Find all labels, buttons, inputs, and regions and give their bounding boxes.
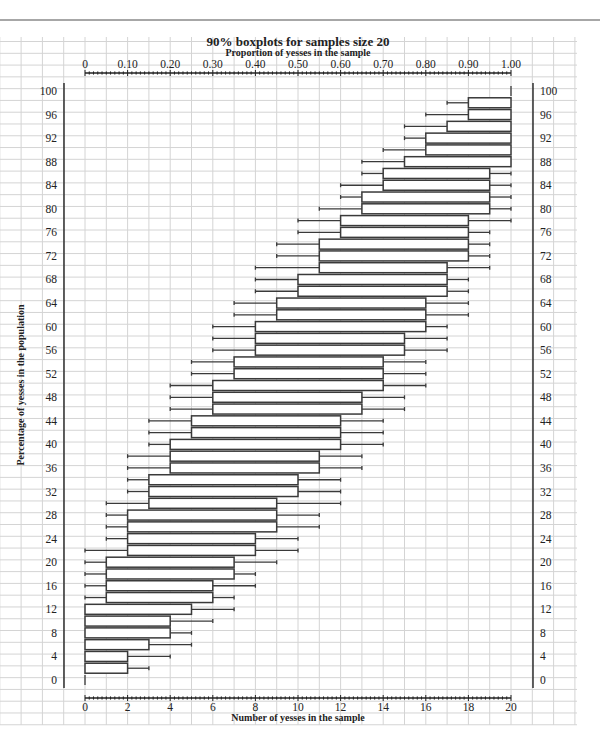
boxplot-row [298, 227, 490, 237]
boxplot-row [213, 333, 447, 343]
left-axis-tick-label: 4 [51, 650, 57, 662]
box [170, 451, 319, 461]
boxplot-row [426, 110, 511, 120]
boxplot-row [170, 404, 404, 414]
box [149, 487, 298, 497]
left-axis-tick-label: 56 [46, 344, 58, 356]
box [405, 157, 512, 167]
count-axis: 02468101214161820 [82, 695, 517, 713]
box [85, 640, 149, 650]
box [319, 251, 468, 261]
box [170, 463, 319, 473]
bottom-axis-tick-label: 2 [125, 701, 131, 713]
box [106, 593, 213, 603]
box [85, 663, 128, 673]
boxplot-row [149, 416, 383, 426]
bottom-axis-tick-label: 0 [82, 701, 88, 713]
left-axis-tick-label: 36 [46, 462, 58, 474]
boxplot-chart: 90% boxplots for samples size 20 Proport… [0, 0, 600, 751]
box [383, 168, 490, 178]
left-axis-tick-label: 8 [51, 627, 57, 639]
box [149, 475, 298, 485]
right-axis-tick-label: 48 [540, 391, 552, 403]
box [149, 498, 277, 508]
box [85, 616, 170, 626]
right-axis-tick-label: 4 [540, 650, 546, 662]
boxplot-row [234, 310, 468, 320]
boxplot-row [255, 274, 468, 284]
left-axis-tick-label: 100 [40, 85, 58, 97]
boxplot-row [106, 510, 319, 520]
left-axis-tick-label: 20 [46, 556, 58, 568]
box [319, 263, 447, 273]
right-axis-tick-label: 16 [540, 580, 552, 592]
box [234, 357, 383, 367]
box [362, 192, 490, 202]
box [341, 216, 469, 226]
boxplot-row [170, 381, 426, 391]
right-axis-tick-label: 88 [540, 156, 552, 168]
boxplot-row [255, 286, 468, 296]
right-axis-tick-label: 68 [540, 273, 552, 285]
boxplot-row [85, 628, 192, 638]
left-axis-tick-label: 44 [46, 415, 58, 427]
right-axis-tick-label: 80 [540, 203, 552, 215]
bottom-axis-tick-label: 20 [505, 701, 517, 713]
left-axis-tick-label: 80 [46, 203, 58, 215]
left-axis-tick-label: 0 [51, 674, 57, 686]
top-axis-tick-label: 0.10 [118, 58, 138, 70]
top-axis-tick-label: 0.30 [203, 58, 223, 70]
y-axis-title: Percentage of yesses in the population [15, 304, 26, 466]
top-axis-tick-label: 0.20 [160, 58, 180, 70]
right-axis-tick-label: 40 [540, 438, 552, 450]
right-axis-tick-label: 96 [540, 109, 552, 121]
right-axis-tick-label: 56 [540, 344, 552, 356]
box [234, 369, 383, 379]
boxplot-row [106, 522, 319, 532]
left-axis-tick-label: 28 [46, 509, 58, 521]
box [213, 392, 362, 402]
boxplot-row [234, 298, 468, 308]
left-axis-tick-label: 16 [46, 580, 58, 592]
boxplot-row [85, 545, 298, 555]
box [85, 628, 170, 638]
box [192, 428, 341, 438]
bottom-axis-tick-label: 6 [210, 701, 216, 713]
boxplot-row [128, 463, 362, 473]
boxplot-row [255, 263, 489, 273]
box [128, 534, 256, 544]
left-axis-tick-label: 76 [46, 226, 58, 238]
left-axis-tick-label: 96 [46, 109, 58, 121]
boxplot-row [128, 475, 341, 485]
box [298, 286, 447, 296]
boxplot-row [405, 121, 512, 131]
boxplot-row [213, 345, 447, 355]
box [426, 145, 511, 155]
box [362, 204, 490, 214]
x-axis-title: Number of yesses in the sample [231, 712, 365, 723]
boxplot-row [149, 428, 383, 438]
box [106, 557, 234, 567]
right-axis-tick-label: 60 [540, 321, 552, 333]
right-axis-tick-label: 12 [540, 603, 552, 615]
boxplot-row [128, 487, 341, 497]
left-axis-tick-label: 88 [46, 156, 58, 168]
bottom-axis-tick-label: 18 [463, 701, 475, 713]
boxplot-row [85, 640, 192, 650]
top-axis-tick-label: 0 [82, 58, 88, 70]
population-axis-left: 0481216202428323640444852566064687276808… [40, 83, 64, 688]
box [213, 404, 362, 414]
left-axis-tick-label: 68 [46, 273, 58, 285]
right-axis-tick-label: 100 [540, 85, 558, 97]
boxplot-row [170, 392, 404, 402]
right-axis-tick-label: 24 [540, 533, 552, 545]
boxplot-row [106, 498, 340, 508]
box [255, 345, 404, 355]
boxplot-row [277, 251, 490, 261]
right-axis-tick-label: 44 [540, 415, 552, 427]
right-axis-tick-label: 72 [540, 250, 552, 262]
top-axis-tick-label: 0.40 [245, 58, 265, 70]
bottom-axis-tick-label: 14 [377, 701, 389, 713]
box [255, 333, 404, 343]
boxplot-row [405, 133, 512, 143]
